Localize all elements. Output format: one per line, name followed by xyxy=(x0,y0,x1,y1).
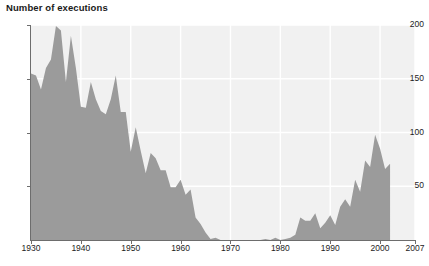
x-axis-tick-label: 1980 xyxy=(260,243,300,253)
y-axis-tick-label: 200 xyxy=(398,20,424,29)
plot-svg xyxy=(31,25,415,240)
x-axis-tick-mark xyxy=(415,241,416,244)
x-axis-tick-mark xyxy=(330,241,331,244)
y-axis-tick-label: 150 xyxy=(398,74,424,83)
y-axis-tick-mark xyxy=(27,133,30,134)
x-axis-tick-mark xyxy=(380,241,381,244)
y-axis-tick-label: 50 xyxy=(398,181,424,190)
x-axis-tick-mark xyxy=(181,241,182,244)
x-axis-tick-mark xyxy=(230,241,231,244)
x-axis-tick-label: 1970 xyxy=(210,243,250,253)
x-axis-tick-label: 1950 xyxy=(111,243,151,253)
x-axis-line xyxy=(30,240,416,241)
y-axis-tick-label: 100 xyxy=(398,128,424,137)
x-axis-tick-mark xyxy=(81,241,82,244)
x-axis-tick-mark xyxy=(280,241,281,244)
chart-title: Number of executions xyxy=(6,2,108,13)
y-axis-tick-mark xyxy=(27,186,30,187)
y-axis-tick-mark xyxy=(27,79,30,80)
plot-area xyxy=(31,25,415,240)
x-axis-tick-label: 1990 xyxy=(310,243,350,253)
y-axis-tick-mark xyxy=(27,25,30,26)
x-axis-tick-label: 2007 xyxy=(395,243,429,253)
x-axis-tick-label: 1960 xyxy=(161,243,201,253)
x-axis-tick-mark xyxy=(31,241,32,244)
x-axis-tick-label: 1930 xyxy=(11,243,51,253)
x-axis-tick-mark xyxy=(131,241,132,244)
y-axis-line xyxy=(30,25,31,241)
x-axis-tick-label: 1940 xyxy=(61,243,101,253)
